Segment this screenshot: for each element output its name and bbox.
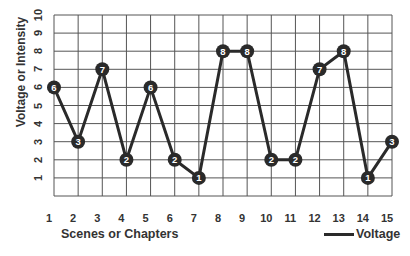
x-axis-title: Scenes or Chapters [61, 227, 178, 241]
y-tick-label: 5 [32, 102, 44, 108]
x-tick-label: 2 [70, 212, 76, 224]
chart-grid [54, 15, 392, 196]
data-label: 2 [269, 154, 274, 165]
data-label: 7 [317, 64, 322, 75]
data-point: 8 [240, 44, 254, 58]
y-tick-label: 1 [32, 175, 44, 181]
data-label: 1 [196, 172, 202, 183]
data-point: 2 [264, 153, 278, 167]
data-label: 2 [172, 154, 177, 165]
data-label: 6 [148, 82, 153, 93]
x-tick-label: 10 [260, 212, 272, 224]
y-axis-title: Voltage or Intensity [14, 17, 28, 127]
y-tick-label: 10 [32, 9, 44, 21]
y-tick-label: 4 [32, 121, 44, 127]
x-tick-label: 8 [215, 212, 221, 224]
x-tick-label: 12 [308, 212, 320, 224]
x-tick-label: 1 [46, 212, 52, 224]
x-tick-label: 7 [191, 212, 197, 224]
y-tick-label: 8 [32, 48, 44, 54]
line-chart: 637262188227813 [0, 0, 410, 256]
data-point: 8 [216, 44, 230, 58]
legend-label-voltage: Voltage [356, 227, 400, 241]
x-tick-label: 11 [285, 212, 297, 224]
data-point: 7 [95, 62, 109, 76]
data-point: 3 [71, 135, 85, 149]
data-label: 8 [244, 46, 249, 57]
data-label: 2 [124, 154, 129, 165]
x-tick-label: 13 [333, 212, 345, 224]
x-tick-label: 5 [143, 212, 149, 224]
data-label: 6 [51, 82, 56, 93]
y-tick-label: 7 [32, 66, 44, 72]
x-tick-label: 3 [94, 212, 100, 224]
x-tick-label: 9 [239, 212, 245, 224]
data-label: 1 [365, 172, 371, 183]
legend: Voltage [324, 227, 400, 241]
data-point: 1 [361, 171, 375, 185]
data-label: 7 [100, 64, 105, 75]
data-point: 6 [144, 80, 158, 94]
data-point: 7 [313, 62, 327, 76]
x-tick-label: 4 [118, 212, 124, 224]
data-point: 2 [168, 153, 182, 167]
y-tick-label: 3 [32, 139, 44, 145]
data-point: 8 [337, 44, 351, 58]
y-tick-label: 2 [32, 157, 44, 163]
legend-line-swatch [324, 233, 354, 236]
data-label: 3 [389, 136, 394, 147]
x-tick-label: 14 [357, 212, 369, 224]
y-tick-label: 9 [32, 30, 44, 36]
data-point: 6 [47, 80, 61, 94]
data-label: 2 [293, 154, 298, 165]
x-tick-label: 15 [381, 212, 393, 224]
data-point: 2 [119, 153, 133, 167]
x-tick-label: 6 [167, 212, 173, 224]
data-label: 8 [220, 46, 225, 57]
data-point: 3 [385, 135, 399, 149]
data-point: 1 [192, 171, 206, 185]
data-label: 3 [75, 136, 80, 147]
data-point: 2 [288, 153, 302, 167]
data-label: 8 [341, 46, 346, 57]
y-tick-label: 6 [32, 84, 44, 90]
